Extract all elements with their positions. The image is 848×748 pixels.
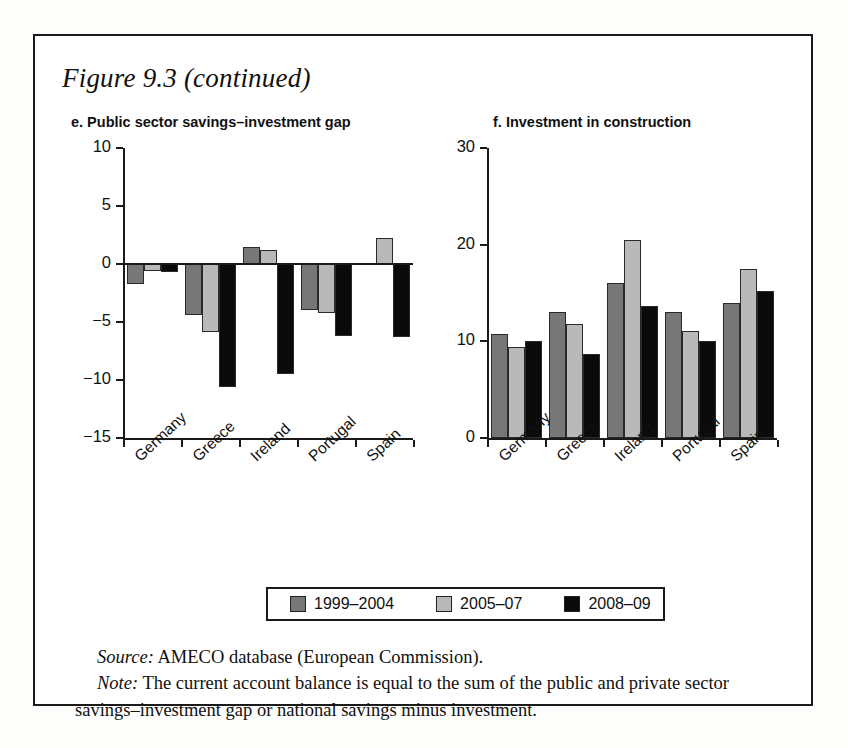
source-label: Source: bbox=[97, 647, 154, 667]
y-axis-tick-label: 10 bbox=[425, 330, 475, 349]
y-axis-line bbox=[487, 148, 489, 438]
bar bbox=[641, 306, 658, 438]
bar bbox=[318, 264, 335, 313]
x-axis-category-label: Greece bbox=[189, 417, 238, 465]
legend-label-2008-09: 2008–09 bbox=[588, 595, 650, 613]
legend-label-2005-07: 2005–07 bbox=[460, 595, 522, 613]
chart-panel-e: e. Public sector savings–investment gap … bbox=[45, 114, 435, 564]
bar bbox=[393, 264, 410, 337]
y-axis-tick bbox=[116, 263, 123, 265]
x-axis-tick bbox=[661, 440, 663, 447]
bar bbox=[260, 250, 277, 264]
y-axis-tick bbox=[480, 437, 487, 439]
bar bbox=[607, 283, 624, 438]
chart-legend: 1999–2004 2005–07 2008–09 bbox=[266, 587, 665, 621]
bar bbox=[682, 331, 699, 438]
note-text: The current account balance is equal to … bbox=[75, 673, 729, 719]
panel-f-title: f. Investment in construction bbox=[493, 114, 691, 130]
panel-f-plot-area: 3020100GermanyGreeceIrelandPortugalSpain bbox=[425, 142, 815, 562]
y-axis-tick-label: −5 bbox=[61, 311, 111, 330]
y-axis-tick bbox=[116, 205, 123, 207]
x-axis-category-label: Germany bbox=[131, 409, 190, 466]
bar bbox=[144, 264, 161, 271]
legend-swatch-2005-07 bbox=[436, 596, 452, 612]
bar bbox=[376, 238, 393, 264]
y-axis-line bbox=[123, 148, 125, 438]
x-axis-category-label: Spain bbox=[363, 425, 404, 465]
y-axis-tick-label: −10 bbox=[61, 369, 111, 388]
y-axis-tick bbox=[480, 244, 487, 246]
source-text: AMECO database (European Commission). bbox=[154, 647, 483, 667]
y-axis-tick-label: −15 bbox=[61, 427, 111, 446]
bar bbox=[491, 334, 508, 438]
y-axis-tick bbox=[480, 340, 487, 342]
legend-item-1: 1999–2004 bbox=[290, 595, 394, 613]
bar bbox=[665, 312, 682, 438]
bar bbox=[335, 264, 352, 336]
legend-swatch-2008-09 bbox=[564, 596, 580, 612]
bar bbox=[219, 264, 236, 387]
y-axis-tick-label: 10 bbox=[61, 137, 111, 156]
bar bbox=[508, 347, 525, 438]
y-axis-tick bbox=[116, 437, 123, 439]
source-line: Source: AMECO database (European Commiss… bbox=[75, 644, 775, 670]
bar bbox=[277, 264, 294, 374]
y-axis-tick-label: 20 bbox=[425, 234, 475, 253]
x-axis-category-label: Ireland bbox=[247, 420, 294, 465]
x-axis-tick bbox=[777, 440, 779, 447]
bar bbox=[127, 264, 144, 284]
panel-e-title: e. Public sector savings–investment gap bbox=[71, 114, 351, 130]
bar bbox=[740, 269, 757, 438]
figure-notes: Source: AMECO database (European Commiss… bbox=[75, 644, 775, 723]
y-axis-tick-label: 30 bbox=[425, 137, 475, 156]
x-axis-tick bbox=[123, 440, 125, 447]
legend-label-1999-2004: 1999–2004 bbox=[314, 595, 394, 613]
y-axis-tick bbox=[480, 147, 487, 149]
bar bbox=[202, 264, 219, 332]
y-axis-tick-label: 5 bbox=[61, 195, 111, 214]
bar bbox=[624, 240, 641, 438]
x-axis-tick bbox=[239, 440, 241, 447]
x-axis-tick bbox=[297, 440, 299, 447]
legend-item-2: 2005–07 bbox=[436, 595, 522, 613]
y-axis-tick-label: 0 bbox=[61, 253, 111, 272]
bar bbox=[757, 291, 774, 438]
panel-e-plot-area: 1050−5−10−15GermanyGreeceIrelandPortugal… bbox=[45, 142, 435, 562]
chart-panel-f: f. Investment in construction 3020100Ger… bbox=[425, 114, 815, 564]
y-axis-tick bbox=[116, 321, 123, 323]
figure-frame: Figure 9.3 (continued) e. Public sector … bbox=[33, 34, 813, 706]
y-axis-tick bbox=[116, 379, 123, 381]
x-axis-tick bbox=[603, 440, 605, 447]
bar bbox=[723, 303, 740, 438]
x-axis-tick bbox=[413, 440, 415, 447]
y-axis-tick-label: 0 bbox=[425, 427, 475, 446]
note-label: Note: bbox=[97, 673, 138, 693]
bar bbox=[161, 264, 178, 272]
x-axis-tick bbox=[181, 440, 183, 447]
bar bbox=[301, 264, 318, 310]
bar bbox=[566, 324, 583, 438]
page-background: Figure 9.3 (continued) e. Public sector … bbox=[0, 0, 848, 748]
bar bbox=[243, 247, 260, 264]
x-axis-tick bbox=[355, 440, 357, 447]
legend-item-3: 2008–09 bbox=[564, 595, 650, 613]
x-axis-tick bbox=[719, 440, 721, 447]
y-axis-tick bbox=[116, 147, 123, 149]
zero-reference-line bbox=[123, 263, 413, 265]
x-axis-tick bbox=[487, 440, 489, 447]
note-line: Note: The current account balance is equ… bbox=[75, 670, 775, 723]
bar bbox=[185, 264, 202, 315]
x-axis-tick bbox=[545, 440, 547, 447]
figure-title: Figure 9.3 (continued) bbox=[62, 63, 311, 94]
legend-swatch-1999-2004 bbox=[290, 596, 306, 612]
